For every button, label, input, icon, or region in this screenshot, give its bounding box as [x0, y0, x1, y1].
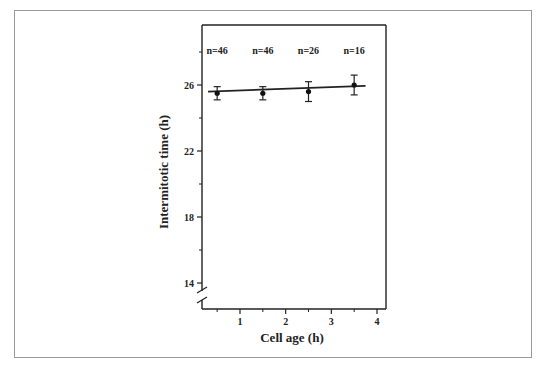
x-tick-label: 3 [329, 316, 334, 327]
data-point [306, 89, 311, 94]
y-axis-ticks: 14182226 [184, 52, 202, 289]
chart: 14182226 1234 n=46n=46n=26n=16 Cell age … [0, 0, 548, 371]
y-tick-label: 18 [184, 212, 194, 223]
y-tick-label: 14 [184, 278, 194, 289]
n-label: n=26 [298, 45, 319, 56]
n-label: n=46 [252, 45, 273, 56]
y-tick-label: 26 [184, 80, 194, 91]
regression-line [208, 86, 366, 92]
data-point [352, 82, 357, 87]
x-tick-label: 2 [283, 316, 288, 327]
n-label: n=46 [207, 45, 228, 56]
x-tick-label: 1 [238, 316, 243, 327]
x-axis-title: Cell age (h) [260, 330, 324, 345]
axes [197, 25, 386, 309]
fit-line [208, 86, 366, 92]
y-axis-title: Intermitotic time (h) [156, 115, 171, 229]
x-tick-label: 4 [375, 316, 380, 327]
n-label: n=16 [344, 45, 365, 56]
data-point [215, 91, 220, 96]
data-point [260, 91, 265, 96]
x-axis-ticks: 1234 [217, 309, 379, 327]
sample-size-labels: n=46n=46n=26n=16 [207, 45, 365, 56]
y-tick-label: 22 [184, 146, 194, 157]
